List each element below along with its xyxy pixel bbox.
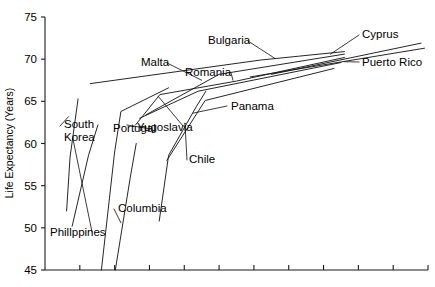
leader-line-panama xyxy=(193,106,227,113)
life-expectancy-chart: 45505560657075 Life Expectancy (Years) P… xyxy=(0,0,435,287)
series-label-cyprus: Cyprus xyxy=(362,28,399,40)
y-tick-label: 45 xyxy=(24,264,37,276)
series-labels-group: PhillppinesSouthKoreaPortugalColumbiaYug… xyxy=(50,28,422,238)
series-label-puerto-rico: Puerto Rico xyxy=(362,56,422,68)
series-label-romania: Romania xyxy=(185,66,232,78)
leader-line-romania xyxy=(231,73,233,80)
y-tick-label: 65 xyxy=(24,95,37,107)
y-tick-label: 50 xyxy=(24,222,37,234)
series-label-south-korea: SouthKorea xyxy=(64,118,95,143)
y-tick-label: 70 xyxy=(24,53,37,65)
y-tick-label: 55 xyxy=(24,180,37,192)
chart-plot-area: 45505560657075 Life Expectancy (Years) P… xyxy=(0,0,435,287)
series-label-chile: Chile xyxy=(189,153,215,165)
y-axis-title-group: Life Expectancy (Years) xyxy=(3,88,15,199)
series-label-panama: Panama xyxy=(231,100,274,112)
series-label-yugoslavia: Yugoslavia xyxy=(137,121,193,133)
y-axis-title: Life Expectancy (Years) xyxy=(3,88,15,199)
leader-line-bulgaria xyxy=(248,41,275,58)
series-label-columbia: Columbia xyxy=(118,202,167,214)
y-tick-label: 75 xyxy=(24,11,37,23)
series-lines-group xyxy=(67,43,425,270)
y-tick-labels-group: 45505560657075 xyxy=(24,11,37,276)
y-tick-label: 60 xyxy=(24,138,37,150)
series-label-phillppines: Phillppines xyxy=(50,226,106,238)
series-label-bulgaria: Bulgaria xyxy=(208,34,251,46)
series-line-portugal xyxy=(101,88,168,270)
series-label-malta: Malta xyxy=(141,56,170,68)
